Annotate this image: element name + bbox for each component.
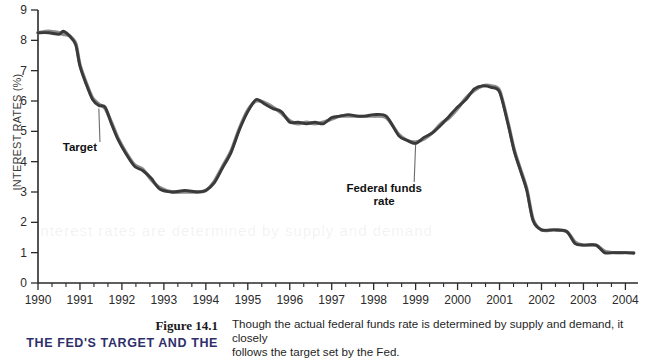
x-tick-label: 1993	[151, 293, 178, 307]
y-axis-ticks: 0123456789	[20, 3, 38, 290]
series-line-target	[38, 31, 634, 253]
caption-body: Though the actual federal funds rate is …	[232, 317, 648, 359]
x-tick-label: 1994	[192, 293, 219, 307]
y-tick-label: 3	[20, 185, 27, 199]
x-tick-label: 1992	[109, 293, 136, 307]
x-tick-label: 1998	[360, 293, 387, 307]
y-tick-label: 0	[20, 276, 27, 290]
figure-headline: THE FED'S TARGET AND THE	[0, 336, 218, 350]
figure-caption: Figure 14.1 THE FED'S TARGET AND THE Tho…	[0, 312, 652, 343]
annotation-federal-funds-line2: rate	[374, 195, 395, 207]
figure-number: Figure 14.1	[128, 318, 218, 334]
x-tick-label: 1991	[67, 293, 94, 307]
x-tick-label: 2000	[444, 293, 471, 307]
caption-line-2: follows the target set by the Fed.	[232, 345, 648, 359]
x-tick-label: 1997	[318, 293, 345, 307]
chart-container: INTEREST RATES (%) interest rates are de…	[0, 0, 652, 310]
x-tick-label: 1996	[276, 293, 303, 307]
x-tick-label: 1995	[234, 293, 261, 307]
x-tick-label: 2001	[486, 293, 513, 307]
caption-line-1: Though the actual federal funds rate is …	[232, 317, 648, 345]
y-tick-label: 6	[20, 94, 27, 108]
target-leader-line	[99, 109, 100, 143]
y-tick-label: 4	[20, 155, 27, 169]
annotation-target: Target	[63, 141, 97, 153]
x-tick-label: 2004	[612, 293, 639, 307]
y-tick-label: 5	[20, 124, 27, 138]
x-tick-label: 2002	[528, 293, 555, 307]
annotation-federal-funds-line1: Federal funds	[346, 182, 421, 194]
x-tick-label: 2003	[570, 293, 597, 307]
y-tick-label: 8	[20, 33, 27, 47]
interest-rates-line-chart: 0123456789 19901991199219931994199519961…	[0, 0, 652, 310]
y-tick-label: 1	[20, 246, 27, 260]
series-line-federal-funds-rate	[38, 31, 634, 253]
y-tick-label: 7	[20, 64, 27, 78]
federal-funds-rate-leader-line	[414, 144, 415, 182]
y-tick-label: 2	[20, 215, 27, 229]
x-tick-label: 1999	[402, 293, 429, 307]
y-tick-label: 9	[20, 3, 27, 17]
x-axis-ticks: 1990199119921993199419951996199719981999…	[25, 283, 639, 307]
x-tick-label: 1990	[25, 293, 52, 307]
